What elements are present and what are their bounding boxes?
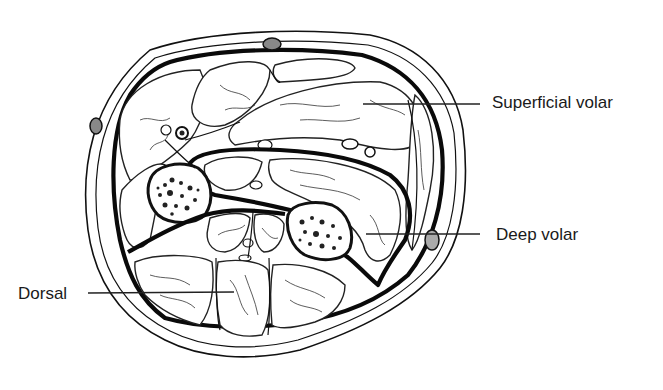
cutaneous-vessel-right xyxy=(425,230,439,250)
neurovascular-bundle-5 xyxy=(365,147,375,157)
interosseous-vessel-2 xyxy=(243,239,253,247)
muscle-dorsal-4 xyxy=(216,260,270,336)
muscle-sv-3 xyxy=(273,59,355,82)
label-deep-volar: Deep volar xyxy=(496,226,578,243)
forearm-cross-section-diagram xyxy=(0,0,663,390)
vessel-lumen xyxy=(180,131,185,136)
cutaneous-vessel-left xyxy=(90,118,102,134)
leader-line-dorsal xyxy=(88,292,234,293)
muscle-dorsal-1 xyxy=(207,214,250,253)
neurovascular-bundle-4 xyxy=(342,139,358,149)
ulna-bone xyxy=(287,203,351,260)
label-superficial-volar: Superficial volar xyxy=(492,94,613,111)
label-dorsal: Dorsal xyxy=(18,285,67,302)
muscle-dorsal-5 xyxy=(271,264,345,327)
muscle-dorsal-3 xyxy=(135,256,213,325)
radius-bone xyxy=(148,164,211,222)
neurovascular-bundle-1 xyxy=(161,125,171,135)
cutaneous-vessel-top xyxy=(263,38,281,50)
muscle-dorsal-2 xyxy=(254,214,284,252)
